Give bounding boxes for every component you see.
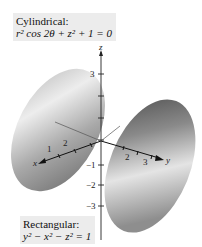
z-axis (98, 50, 104, 240)
cylindrical-title: Cylindrical: (16, 15, 112, 27)
rectangular-title: Rectangular: (23, 218, 91, 230)
x-tick-1: 1 (47, 144, 52, 154)
rectangular-equation-label: Rectangular: y² − x² − z² = 1 (20, 216, 95, 244)
z-tick-neg1: −1 (86, 160, 96, 170)
cylindrical-equation: r² cos 2θ + z² + 1 = 0 (16, 27, 112, 39)
z-tick-neg3: −3 (86, 201, 96, 211)
z-tick-neg2: −2 (86, 180, 96, 190)
x-tick-2: 2 (63, 138, 68, 148)
y-tick-2: 2 (125, 152, 130, 162)
x-axis-label: x (32, 158, 37, 168)
y-axis-label: y (165, 155, 170, 165)
z-tick-3: 3 (90, 69, 95, 79)
y-tick-3: 3 (143, 157, 148, 167)
cylindrical-equation-label: Cylindrical: r² cos 2θ + z² + 1 = 0 (13, 13, 116, 41)
rectangular-equation: y² − x² − z² = 1 (23, 230, 91, 242)
z-axis-label: z (98, 42, 103, 52)
